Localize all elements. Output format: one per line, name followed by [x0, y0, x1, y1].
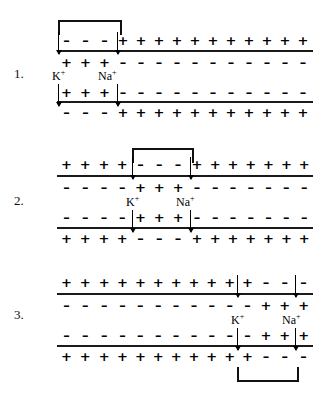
panel-1-outer-top-charges: [57, 33, 313, 47]
charge-plus: [168, 34, 186, 47]
charge-plus: [167, 350, 185, 363]
panel-2-potassium-label: K+: [126, 196, 139, 208]
charge-minus: [131, 329, 149, 342]
charge-plus: [150, 34, 168, 47]
charge-plus: [276, 106, 294, 119]
charge-plus: [132, 34, 150, 47]
charge-minus: [95, 106, 114, 119]
charge-minus: [169, 158, 188, 171]
arrowhead-down-icon: [188, 175, 194, 180]
charge-minus: [131, 232, 150, 245]
charge-plus: [295, 232, 313, 245]
charge-plus: [256, 299, 275, 312]
charge-plus: [242, 232, 260, 245]
charge-minus: [276, 56, 294, 69]
charge-plus: [186, 106, 204, 119]
arrowhead-down-icon: [293, 293, 299, 298]
charge-plus: [204, 106, 222, 119]
charge-plus: [149, 350, 167, 363]
charge-minus: [95, 211, 114, 224]
charge-minus: [294, 350, 313, 363]
charge-plus: [169, 181, 188, 194]
potassium-charge: +: [135, 194, 140, 203]
arrowhead-down-icon: [235, 293, 241, 298]
charge-minus: [221, 299, 239, 312]
charge-plus: [169, 211, 188, 224]
charge-plus: [276, 34, 294, 47]
charge-minus: [186, 86, 204, 99]
charge-plus: [150, 211, 169, 224]
arrowhead-down-icon: [188, 228, 194, 233]
panel-1-inner-bottom-charges: [57, 85, 313, 99]
panel-3-inner-bottom-charges: [57, 328, 313, 342]
panel-1-inner-top-charges: [57, 55, 313, 69]
charge-minus: [76, 299, 95, 312]
panel-3-sodium-label: Na+: [282, 314, 301, 326]
panel-1-inner-membrane-line: [57, 101, 313, 103]
panel-3-inner-top-charges: [57, 298, 313, 312]
charge-plus: [203, 276, 221, 289]
panel-2-potassium-arrow-bottom: [132, 210, 133, 232]
potassium-charge: +: [240, 312, 245, 321]
charge-plus: [57, 56, 76, 69]
charge-minus: [185, 329, 203, 342]
charge-minus: [275, 276, 294, 289]
potassium-charge: +: [61, 68, 66, 77]
charge-plus: [224, 232, 242, 245]
charge-plus: [113, 158, 131, 171]
charge-minus: [295, 211, 313, 224]
charge-minus: [239, 329, 257, 342]
charge-minus: [57, 211, 76, 224]
charge-plus: [131, 181, 150, 194]
panel-1-sodium-arrow-bottom: [117, 84, 118, 106]
charge-minus: [221, 329, 239, 342]
charge-minus: [294, 56, 312, 69]
charge-plus: [294, 299, 313, 312]
charge-plus: [57, 276, 76, 289]
charge-plus: [240, 34, 258, 47]
panel-1-sodium-arrow-top: [117, 32, 118, 54]
charge-plus: [167, 276, 185, 289]
charge-plus: [206, 158, 224, 171]
sodium-charge: +: [112, 68, 117, 77]
panel-3: 3.: [0, 264, 323, 394]
charge-minus: [114, 299, 132, 312]
charge-plus: [113, 232, 131, 245]
charge-minus: [222, 86, 240, 99]
charge-minus: [131, 299, 149, 312]
charge-plus: [260, 158, 278, 171]
arrowhead-down-icon: [130, 175, 136, 180]
charge-plus: [186, 34, 204, 47]
charge-plus: [224, 158, 242, 171]
charge-minus: [113, 181, 131, 194]
charge-minus: [76, 106, 95, 119]
charge-minus: [204, 86, 222, 99]
charge-minus: [150, 158, 169, 171]
charge-plus: [131, 350, 149, 363]
charge-plus: [185, 276, 203, 289]
charge-plus: [168, 106, 186, 119]
charge-minus: [256, 276, 275, 289]
charge-plus: [221, 276, 239, 289]
charge-minus: [57, 299, 76, 312]
charge-plus: [76, 86, 95, 99]
charge-plus: [294, 34, 312, 47]
sodium-symbol: Na: [98, 69, 112, 83]
charge-plus: [187, 232, 206, 245]
charge-minus: [258, 86, 276, 99]
panel-3-outer-top-charges: [57, 275, 313, 289]
charge-minus: [295, 181, 313, 194]
charge-plus: [277, 158, 295, 171]
panel-2-number: 2.: [14, 193, 24, 209]
charge-minus: [294, 276, 313, 289]
charge-minus: [76, 329, 95, 342]
charge-plus: [76, 350, 95, 363]
charge-minus: [203, 329, 221, 342]
panel-2-outer-bottom-charges: [57, 231, 313, 245]
charge-minus: [277, 181, 295, 194]
charge-minus: [168, 56, 186, 69]
panel-3-potassium-arrow-top: [237, 275, 238, 297]
panel-2-inner-bottom-charges: [57, 210, 313, 224]
panel-2-inner-membrane-line: [57, 227, 313, 229]
panel-1-outer-bottom-charges: [57, 105, 313, 119]
